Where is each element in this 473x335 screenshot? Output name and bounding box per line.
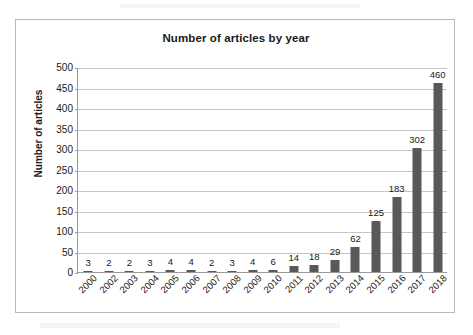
bar[interactable] [310,265,319,272]
y-tick-label: 450 [17,84,73,94]
y-tick-label: 350 [17,125,73,135]
bar-value-label: 18 [309,252,320,262]
y-tick-label: 50 [17,248,73,258]
bar-slot: 22003 [119,68,140,272]
x-tick-label: 2000 [77,273,99,295]
bar[interactable] [166,270,175,272]
x-tick-label: 2008 [221,273,243,295]
bar-value-label: 29 [330,247,341,257]
bar[interactable] [269,270,278,272]
bar-slot: 4602018 [427,68,448,272]
x-tick-label: 2007 [201,273,223,295]
plot-area: 050100150200250300350400450500 320002200… [77,68,447,273]
bar-slot: 62010 [263,68,284,272]
chart-frame: Number of articles by year Number of art… [15,19,455,313]
bar-value-label: 460 [430,70,446,80]
bar[interactable] [351,247,360,272]
x-tick-label: 2016 [386,273,408,295]
y-tick-label: 250 [17,166,73,176]
bar-value-label: 2 [106,258,111,268]
bar-value-label: 6 [271,257,276,267]
y-tick-label: 150 [17,207,73,217]
bar-slot: 32008 [222,68,243,272]
x-tick-label: 2003 [118,273,140,295]
x-tick-label: 2018 [427,273,449,295]
scan-artifact [40,323,340,328]
bar-slot: 3022017 [407,68,428,272]
y-tick-label: 500 [17,63,73,73]
bar-slot: 42006 [181,68,202,272]
x-tick-label: 2009 [242,273,264,295]
bar-value-label: 4 [168,257,173,267]
x-tick-label: 2013 [324,273,346,295]
y-tick-mark [75,273,78,274]
bar-value-label: 14 [289,253,300,263]
bar-value-label: 3 [86,258,91,268]
y-tick-label: 300 [17,145,73,155]
bar-slot: 22007 [201,68,222,272]
bar-value-label: 4 [188,257,193,267]
bar-slot: 22002 [99,68,120,272]
bar[interactable] [372,221,381,272]
bar-slot: 42009 [242,68,263,272]
bar-slot: 1252015 [366,68,387,272]
x-tick-label: 2017 [406,273,428,295]
bar-slot: 32004 [140,68,161,272]
bar-value-label: 62 [350,234,361,244]
x-tick-label: 2006 [180,273,202,295]
bar[interactable] [413,148,422,272]
y-tick-label: 400 [17,104,73,114]
y-tick-label: 200 [17,186,73,196]
bar-value-label: 2 [127,258,132,268]
bar-slot: 182012 [304,68,325,272]
chart-title: Number of articles by year [16,32,456,44]
bar-slot: 42005 [160,68,181,272]
x-tick-label: 2015 [365,273,387,295]
bar-slot: 32000 [78,68,99,272]
x-tick-label: 2011 [283,273,305,295]
x-tick-label: 2002 [98,273,120,295]
x-tick-label: 2004 [139,273,161,295]
x-tick-label: 2010 [262,273,284,295]
bar[interactable] [330,260,339,272]
bar[interactable] [289,266,298,272]
y-tick-label: 0 [17,268,73,278]
bar-value-label: 3 [147,258,152,268]
x-tick-label: 2012 [303,273,325,295]
bar-value-label: 125 [368,208,384,218]
x-tick-label: 2014 [344,273,366,295]
bar-value-label: 302 [409,135,425,145]
bar-slot: 292013 [325,68,346,272]
x-tick-label: 2005 [159,273,181,295]
bar-value-label: 4 [250,257,255,267]
bar-value-label: 183 [389,184,405,194]
bar[interactable] [392,197,401,272]
bar-slot: 622014 [345,68,366,272]
bar[interactable] [433,83,442,272]
y-tick-label: 100 [17,227,73,237]
bar-slot: 142011 [284,68,305,272]
bar-value-label: 3 [229,258,234,268]
bar-slot: 1832016 [386,68,407,272]
bar-value-label: 2 [209,258,214,268]
scan-artifact [120,4,360,8]
